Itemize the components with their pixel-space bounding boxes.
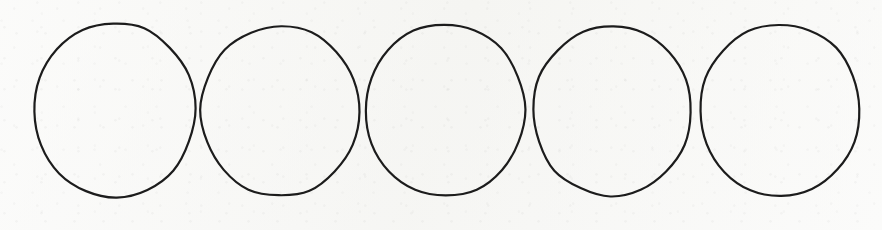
circle-4: Circle 4 — [533, 26, 690, 196]
circle-1: Circle 1 — [34, 24, 195, 198]
circles-group: Circle 1Circle 2Circle 3Circle 4Circle 5 — [34, 24, 859, 198]
figure-canvas: Circle 1Circle 2Circle 3Circle 4Circle 5 — [0, 0, 882, 230]
circle-2: Circle 2 — [200, 26, 359, 195]
circle-5: Circle 5 — [701, 25, 860, 196]
circle-3: Circle 3 — [366, 25, 526, 195]
circles-figure: Circle 1Circle 2Circle 3Circle 4Circle 5 — [0, 0, 882, 230]
